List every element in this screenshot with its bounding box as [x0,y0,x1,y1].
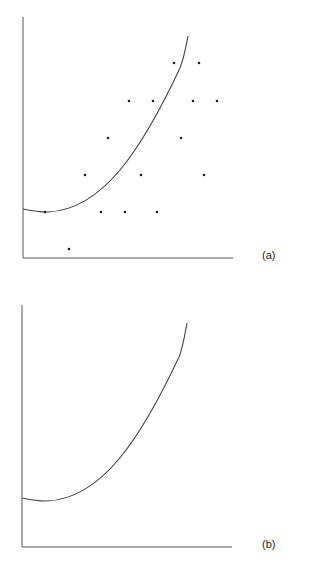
panel-label-a: (a) [262,249,275,261]
data-point [100,211,103,214]
data-point [140,174,143,177]
data-point [180,137,183,140]
chart-panel-b: (b) [22,305,275,550]
data-point [173,62,176,65]
data-point [192,100,195,103]
data-point [107,137,110,140]
data-point [68,248,71,251]
fitted-curve-a [23,36,188,212]
chart-panel-a: (a) [23,17,275,261]
data-point [156,211,159,214]
data-point [216,100,219,103]
figure-canvas: (a) (b) [0,0,319,566]
data-point [198,62,201,65]
data-point [152,100,155,103]
data-point [203,174,206,177]
data-point [84,174,87,177]
data-point [128,100,131,103]
data-point [44,211,47,214]
fitted-curve-b [22,323,187,501]
data-point [124,211,127,214]
panel-label-b: (b) [262,538,275,550]
